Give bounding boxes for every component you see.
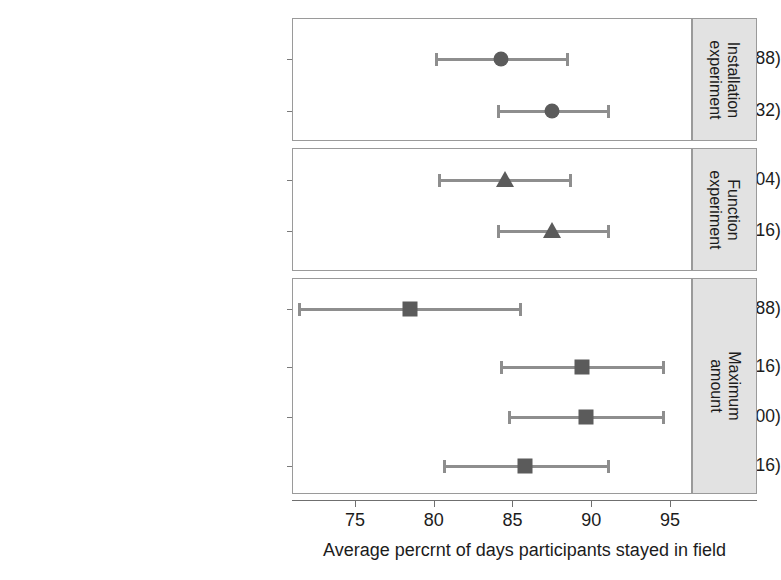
strip-text: Function experiment xyxy=(707,170,743,249)
data-point-marker-square xyxy=(518,459,533,474)
ci-upper-cap xyxy=(569,174,572,187)
data-point-marker-square xyxy=(403,302,418,317)
x-tick-mark xyxy=(591,501,592,507)
data-point-marker-circle xyxy=(544,104,559,119)
strip-text: Installation experiment xyxy=(707,40,743,119)
ci-lower-cap xyxy=(500,361,503,374)
ci-lower-cap xyxy=(497,225,500,238)
x-tick-label: 90 xyxy=(581,511,601,529)
x-tick-label: 80 xyxy=(424,511,444,529)
strip-text: Maximum amount xyxy=(707,351,743,420)
data-point-marker-circle xyxy=(494,52,509,67)
x-tick-mark xyxy=(355,501,356,507)
chart-panel xyxy=(292,148,692,271)
x-axis-line xyxy=(292,500,757,501)
ci-lower-cap xyxy=(435,53,438,66)
ci-upper-cap xyxy=(607,105,610,118)
data-point-marker-square xyxy=(574,360,589,375)
data-point-marker-triangle xyxy=(496,171,514,187)
x-tick-mark xyxy=(670,501,671,507)
ci-lower-cap xyxy=(508,411,511,424)
panel-strip-label: Installation experiment xyxy=(692,18,757,141)
ci-upper-cap xyxy=(607,225,610,238)
ci-upper-cap xyxy=(519,303,522,316)
x-tick-mark xyxy=(434,501,435,507)
ci-lower-cap xyxy=(497,105,500,118)
x-axis-title: Average percrnt of days participants sta… xyxy=(292,541,757,559)
ci-lower-cap xyxy=(443,460,446,473)
ci-upper-cap xyxy=(662,411,665,424)
chart-figure: €10 for installation (N = 188)€20 for in… xyxy=(0,0,781,580)
x-tick-label: 85 xyxy=(502,511,522,529)
ci-upper-cap xyxy=(607,460,610,473)
data-point-marker-square xyxy=(579,410,594,425)
ci-upper-cap xyxy=(566,53,569,66)
ci-lower-cap xyxy=(438,174,441,187)
x-tick-label: 75 xyxy=(345,511,365,529)
x-tick-label: 95 xyxy=(660,511,680,529)
panel-strip-label: Function experiment xyxy=(692,148,757,271)
ci-lower-cap xyxy=(298,303,301,316)
chart-panel xyxy=(292,18,692,141)
data-point-marker-triangle xyxy=(543,222,561,238)
panel-strip-label: Maximum amount xyxy=(692,278,757,494)
x-tick-mark xyxy=(512,501,513,507)
ci-upper-cap xyxy=(662,361,665,374)
